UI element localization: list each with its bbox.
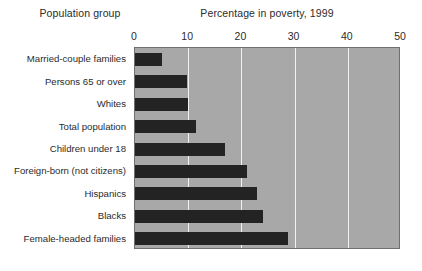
category-label: Married-couple families (27, 53, 126, 64)
bar (135, 232, 288, 245)
x-tick-label: 30 (288, 30, 300, 42)
bar (135, 143, 225, 156)
bar (135, 75, 187, 88)
bar (135, 53, 162, 66)
category-label: Hispanics (84, 187, 126, 198)
category-label: Foreign-born (not citizens) (14, 165, 126, 176)
x-tick-label: 0 (131, 30, 137, 42)
category-label: Persons 65 or over (45, 75, 126, 86)
population-group-header: Population group (24, 7, 136, 19)
bar (135, 165, 247, 178)
x-axis-tick-labels: 01020304050 (0, 30, 422, 46)
x-tick-label: 50 (394, 30, 406, 42)
bar (135, 98, 188, 111)
x-tick-label: 20 (235, 30, 247, 42)
percentage-header: Percentage in poverty, 1999 (134, 7, 400, 19)
gridline (348, 48, 349, 248)
category-label: Total population (59, 120, 126, 131)
bar (135, 120, 196, 133)
plot-area (134, 47, 400, 249)
x-tick-label: 40 (341, 30, 353, 42)
gridline (295, 48, 296, 248)
chart-header-row: Population group Percentage in poverty, … (0, 0, 422, 28)
x-tick-label: 10 (181, 30, 193, 42)
category-label: Children under 18 (50, 143, 126, 154)
category-label: Whites (97, 98, 126, 109)
category-label: Blacks (98, 210, 126, 221)
category-axis-labels: Married-couple familiesPersons 65 or ove… (0, 47, 131, 249)
category-label: Female-headed families (24, 232, 126, 243)
bar (135, 187, 257, 200)
bar (135, 210, 263, 223)
